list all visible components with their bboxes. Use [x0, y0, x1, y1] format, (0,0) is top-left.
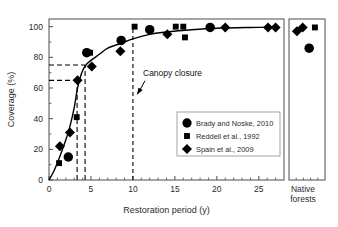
- x-tick-label: 5: [89, 184, 94, 194]
- canopy-closure-arrow-head: [137, 88, 143, 95]
- y-tick-label: 0: [38, 175, 43, 185]
- data-point-diamond-marker: [55, 141, 65, 151]
- legend: Brady and Noske, 2010Reddell et al., 199…: [177, 112, 280, 156]
- data-point-diamond-marker: [115, 46, 125, 56]
- annotations: Canopy closure: [137, 68, 202, 95]
- x-tick-label: 10: [128, 184, 138, 194]
- legend-item-1-square-marker: [184, 133, 190, 139]
- data-point-square-marker: [74, 114, 80, 120]
- native-forests-label-line2: forests: [290, 194, 316, 204]
- x-tick-label: 0: [47, 184, 52, 194]
- legend-label-0: Brady and Noske, 2010: [196, 119, 273, 128]
- x-tick-label: 20: [212, 184, 222, 194]
- data-point-diamond-marker: [271, 22, 281, 32]
- data-point-circle-marker: [205, 23, 215, 33]
- native-forest-point-square-marker: [312, 24, 318, 30]
- native-forest-point-circle-marker: [304, 43, 314, 53]
- data-point-square-marker: [56, 160, 62, 166]
- data-point-square-marker: [173, 24, 179, 30]
- legend-item-0-circle-marker: [182, 118, 191, 127]
- y-axis-title: Coverage (%): [6, 72, 16, 128]
- data-point-circle-marker: [116, 36, 126, 46]
- y-tick-label: 80: [34, 52, 44, 62]
- native-forests-label-line1: Native: [291, 184, 315, 194]
- x-axis-title: Restoration period (y): [123, 205, 210, 215]
- coverage-vs-restoration-period-chart: 020406080100Coverage (%)0510152025Restor…: [0, 0, 338, 227]
- native-forests-points: [292, 22, 318, 52]
- y-tick-label: 100: [29, 22, 43, 32]
- data-point-square-marker: [132, 24, 138, 30]
- y-tick-label: 20: [34, 144, 44, 154]
- legend-label-1: Reddell et al., 1992: [196, 132, 260, 141]
- y-axis: 020406080100Coverage (%): [6, 22, 53, 185]
- canopy-closure-label: Canopy closure: [143, 68, 202, 78]
- data-point-square-marker: [180, 24, 186, 30]
- figure-container: 020406080100Coverage (%)0510152025Restor…: [0, 0, 338, 227]
- native-forests-panel-frame: [289, 19, 325, 180]
- data-point-diamond-marker: [162, 29, 172, 39]
- data-point-square-marker: [182, 34, 188, 40]
- x-tick-label: 15: [170, 184, 180, 194]
- x-tick-label: 25: [254, 184, 264, 194]
- legend-label-2: Spain et al., 2009: [196, 145, 254, 154]
- data-point-square-marker: [87, 50, 93, 56]
- x-axis: 0510152025Restoration period (y)Nativefo…: [47, 176, 318, 215]
- data-point-circle-marker: [64, 152, 74, 162]
- data-point-circle-marker: [145, 25, 155, 35]
- data-point-diamond-marker: [220, 22, 230, 32]
- y-tick-label: 40: [34, 114, 44, 124]
- y-tick-label: 60: [34, 83, 44, 93]
